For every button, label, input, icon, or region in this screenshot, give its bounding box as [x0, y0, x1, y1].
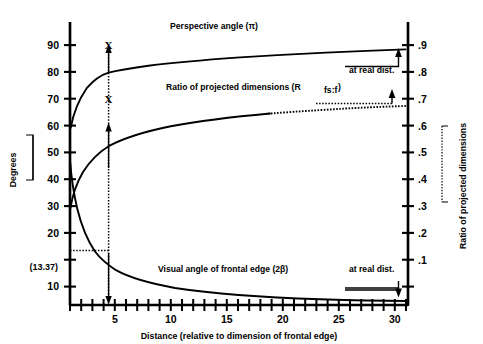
annotation-x-marker-lower: X — [105, 93, 113, 105]
left-tick-label-60: 60 — [47, 120, 59, 132]
series-label-ratio-text: Ratio of projected dimensions (R — [166, 82, 301, 92]
right-axis-title: Ratio of projected dimensions — [458, 123, 468, 249]
right-tick-label-0-7: .7 — [418, 93, 427, 105]
x-tick-label-15: 15 — [221, 313, 233, 325]
left-axis-title-group: Degrees — [8, 135, 33, 187]
series-label-ratio-tail: ) — [338, 82, 341, 92]
series-ratio-projected-dimensions — [70, 106, 405, 208]
left-tick-label-30: 30 — [47, 200, 59, 212]
right-tick-label-0-2: .2 — [418, 227, 427, 239]
x-tick-label-10: 10 — [165, 313, 177, 325]
left-axis-tick-labels: 90 80 70 60 50 40 30 20 10 — [47, 39, 59, 292]
left-tick-label-50: 50 — [47, 146, 59, 158]
x-tick-label-20: 20 — [277, 313, 289, 325]
series-label-ratio-projected: Ratio of projected dimensions (R fs:f ) — [166, 82, 341, 95]
x-tick-label-25: 25 — [333, 313, 345, 325]
annotation-at-real-dist-lower: at real dist. — [349, 264, 394, 274]
annotation-at-real-dist-upper: at real dist. — [349, 65, 394, 75]
arrow-visualangle-at-real-dist — [105, 253, 111, 305]
series-visual-angle-frontal-edge — [70, 162, 406, 301]
callout-visualangle-real-dist — [345, 281, 402, 298]
right-axis-title-group: Ratio of projected dimensions — [442, 123, 468, 249]
left-tick-label-80: 80 — [47, 66, 59, 78]
chart-figure: 90 80 70 60 50 40 30 20 10 .9 .8 .7 — [0, 0, 483, 344]
chart-canvas: 90 80 70 60 50 40 30 20 10 .9 .8 .7 — [0, 0, 483, 344]
left-tick-label-20: 20 — [47, 227, 59, 239]
x-tick-label-30: 30 — [389, 313, 401, 325]
right-tick-label-0-9: .9 — [418, 39, 427, 51]
right-tick-label-0-8: .8 — [418, 66, 427, 78]
left-tick-label-70: 70 — [47, 93, 59, 105]
series-label-perspective-angle: Perspective angle (π) — [170, 21, 258, 31]
right-axis-tick-labels: .9 .8 .7 .6 .5 .4 .3 .2 .1 — [418, 39, 427, 266]
right-tick-label-0-5: .5 — [418, 146, 427, 158]
left-axis-title: Degrees — [8, 153, 18, 188]
right-tick-label-0-4: .4 — [418, 173, 427, 185]
right-tick-label-0-6: .6 — [418, 120, 427, 132]
series-label-ratio-subscript: fs:f — [324, 85, 338, 95]
x-axis-title: Distance (relative to dimension of front… — [141, 331, 338, 341]
left-tick-label-40: 40 — [47, 173, 59, 185]
left-tick-label-10: 10 — [47, 280, 59, 292]
right-tick-label-0-1: .1 — [418, 254, 427, 266]
left-tick-label-90: 90 — [47, 39, 59, 51]
annotation-value-13-37: (13.37) — [29, 262, 58, 272]
right-tick-label-0-3: .3 — [418, 200, 427, 212]
series-label-visual-angle: Visual angle of frontal edge (2β) — [158, 264, 288, 274]
x-tick-label-5: 5 — [112, 313, 118, 325]
x-axis-tick-labels: 5 10 15 20 25 30 — [112, 313, 401, 325]
annotation-x-marker-upper: X — [105, 39, 113, 51]
